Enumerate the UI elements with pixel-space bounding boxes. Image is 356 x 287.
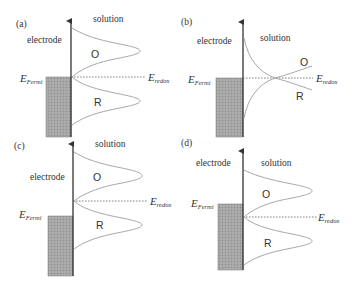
energy-level-diagram: (a) electrode solution O R EFermi Eredox… — [0, 0, 356, 287]
oxidized-distribution-curve — [72, 28, 140, 77]
reduced-label: R — [94, 96, 102, 108]
reduced-label: R — [296, 90, 304, 102]
redox-level-label: Eredox — [317, 211, 339, 224]
electrode-label: electrode — [196, 158, 231, 168]
solution-label: solution — [95, 139, 126, 149]
electrode-label: electrode — [27, 35, 62, 45]
panel-tag: (a) — [16, 19, 27, 30]
redox-level-label: Eredox — [315, 72, 337, 85]
reduced-distribution-curve — [244, 217, 312, 265]
panel-d: (d) electrode solution O R EFermi Eredox — [181, 138, 339, 270]
reduced-distribution-curve — [72, 77, 140, 125]
oxidized-label: O — [300, 56, 308, 68]
electrode-filled-states — [48, 216, 73, 276]
oxidized-label: O — [91, 48, 99, 60]
panel-tag: (c) — [14, 141, 25, 152]
fermi-level-label: EFermi — [19, 72, 43, 85]
redox-level-label: Eredox — [149, 195, 171, 208]
reduced-label: R — [96, 219, 104, 231]
electrode-label: electrode — [30, 172, 65, 182]
fermi-level-label: EFermi — [187, 73, 211, 86]
panel-tag: (d) — [181, 138, 192, 149]
electrode-filled-states — [218, 204, 243, 270]
fermi-level-label: EFermi — [190, 197, 214, 210]
redox-level-label: Eredox — [147, 71, 169, 84]
oxidized-label: O — [93, 171, 101, 183]
fermi-level-label: EFermi — [18, 208, 42, 221]
oxidized-distribution-curve — [244, 170, 312, 217]
panel-tag: (b) — [181, 17, 192, 28]
solution-label: solution — [261, 158, 292, 168]
reduced-distribution-curve — [74, 201, 142, 249]
solution-label: solution — [260, 33, 291, 43]
electrode-filled-states — [46, 77, 71, 137]
reduced-label: R — [264, 237, 272, 249]
oxidized-label: O — [262, 188, 270, 200]
oxidized-distribution-curve — [74, 152, 142, 201]
electrode-label: electrode — [197, 36, 232, 46]
panel-c: (c) electrode solution O R EFermi Eredox — [14, 139, 171, 276]
panel-b: (b) electrode solution O R EFermi Eredox — [181, 17, 337, 137]
panel-a: (a) electrode solution O R EFermi Eredox — [16, 14, 169, 137]
solution-label: solution — [93, 14, 124, 24]
electrode-filled-states — [216, 78, 243, 137]
